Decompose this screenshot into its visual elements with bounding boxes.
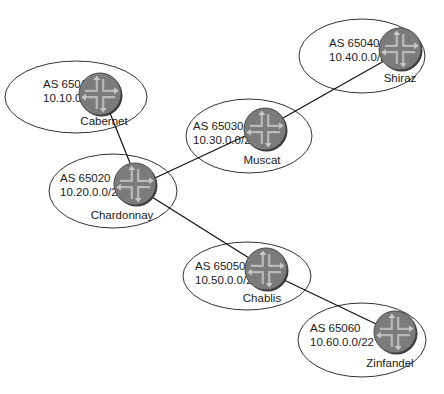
- router-name: Zinfandel: [366, 357, 413, 369]
- router-name: Shiraz: [384, 72, 417, 84]
- link-chardonnay-chablis: [152, 197, 249, 258]
- router-name: Chardonnay: [91, 209, 154, 221]
- network-prefix: 10.60.0.0/22: [310, 336, 374, 348]
- network-diagram: AS 6501010.10.0.0/22CabernetAS 6504010.4…: [0, 0, 444, 394]
- as-number: AS 65040: [329, 37, 380, 49]
- as-number: AS 65060: [310, 322, 361, 334]
- as-number: AS 65050: [195, 260, 246, 272]
- router-name: Cabernet: [80, 115, 128, 127]
- as-number: AS 65030: [193, 120, 244, 132]
- router-name: Muscat: [243, 154, 281, 166]
- router-name: Chablis: [243, 292, 282, 304]
- as-number: AS 65020: [60, 172, 111, 184]
